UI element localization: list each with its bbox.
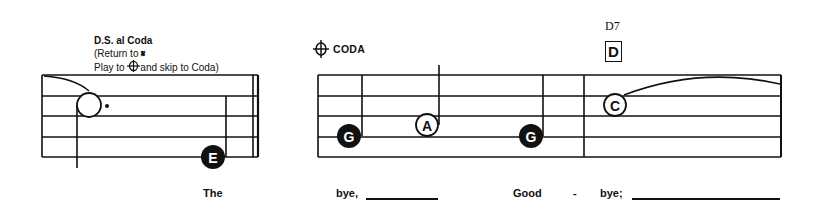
note-E: E bbox=[201, 145, 225, 169]
staff-1 bbox=[42, 75, 258, 168]
music-notation: E G A G C bbox=[0, 0, 822, 213]
note-G: G bbox=[519, 124, 543, 148]
tie-arc bbox=[44, 76, 89, 91]
lyric-word: bye, bbox=[336, 187, 358, 199]
svg-text:G: G bbox=[526, 129, 537, 145]
note-A: A bbox=[416, 114, 438, 136]
note-G: G bbox=[337, 124, 361, 148]
lyric-word: The bbox=[203, 187, 223, 199]
note-C: C bbox=[604, 94, 626, 116]
tie-arc bbox=[624, 77, 780, 95]
lyric-word: bye; bbox=[600, 187, 623, 199]
lyric-extender-line bbox=[366, 198, 438, 200]
svg-text:C: C bbox=[610, 98, 620, 114]
lyric-word: Good bbox=[513, 187, 542, 199]
lyric-extender-line bbox=[632, 198, 780, 200]
augmentation-dot bbox=[105, 104, 109, 108]
staff-2-coda bbox=[318, 65, 781, 157]
svg-text:A: A bbox=[422, 118, 432, 134]
svg-text:G: G bbox=[344, 129, 355, 145]
lyric-hyphen: - bbox=[573, 187, 577, 199]
svg-text:E: E bbox=[208, 150, 217, 166]
